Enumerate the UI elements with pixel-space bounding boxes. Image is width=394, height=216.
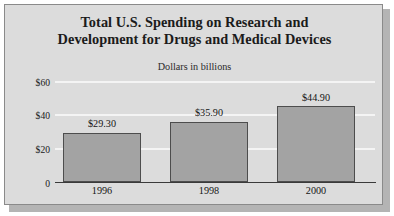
gridline-60 xyxy=(55,81,375,83)
bar-1996 xyxy=(63,133,141,182)
bar-1998 xyxy=(170,122,248,182)
x-tick-label-1998: 1998 xyxy=(164,185,254,196)
y-tick-label-0: 0 xyxy=(6,177,50,188)
y-tick-label-20: $20 xyxy=(6,143,50,154)
bar-2000 xyxy=(277,106,355,182)
bar-value-1996: $29.30 xyxy=(57,118,147,129)
y-tick-label-40: $40 xyxy=(6,110,50,121)
y-tick-label-60: $60 xyxy=(6,76,50,87)
bar-value-2000: $44.90 xyxy=(271,92,361,103)
chart-card: Total U.S. Spending on Research and Deve… xyxy=(4,4,383,205)
x-tick-label-2000: 2000 xyxy=(271,185,361,196)
x-tick-label-1996: 1996 xyxy=(57,185,147,196)
plot-area: $60 $40 $20 0 $29.30 1996 $35.90 1998 $4… xyxy=(5,5,383,205)
bar-value-1998: $35.90 xyxy=(164,107,254,118)
